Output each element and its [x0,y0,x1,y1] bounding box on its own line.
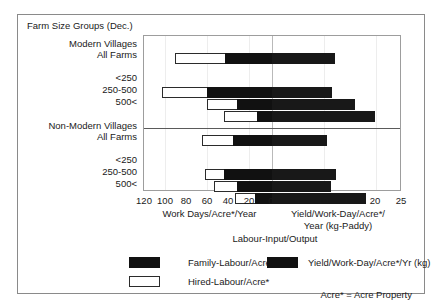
plot-area [143,35,401,191]
category-label-nonmodern-lt250: <250 [116,154,137,165]
bar-hired-nonmodern-250-500 [214,181,238,192]
bar-row-modern-250-500 [144,99,400,110]
category-label-modern-allfarms: All Farms [97,49,137,60]
category-label-nonmodern-500plus: 500< [116,178,137,189]
legend-swatch-family-labour [129,257,160,268]
chart-group-title: Farm Size Groups (Dec.) [27,20,133,31]
category-label-nonmodern-250-500: 250-500 [102,166,137,177]
bar-family-nonmodern-lt250 [224,169,273,180]
group-separator-line [144,128,400,129]
legend-label-hired-labour: Hired-Labour/Acre* [188,276,269,287]
group-label-modern: Modern Villages [69,38,137,49]
bar-hired-modern-lt250 [162,87,208,98]
bar-row-modern-lt250 [144,87,400,98]
axis-title-right-line1: Yield/Work-Day/Acre*/ [273,208,403,219]
legend-swatch-hired-labour [129,276,160,287]
bar-row-modern-500plus [144,111,400,122]
category-label-modern-lt250: <250 [116,72,137,83]
bar-hired-modern-500plus [224,111,258,122]
bar-row-nonmodern-250-500 [144,181,400,192]
legend-swatch-yield [267,257,298,268]
bar-row-nonmodern-allfarms [144,135,400,146]
bar-family-nonmodern-250-500 [237,181,273,192]
category-label-nonmodern-allfarms: All Farms [97,131,137,142]
category-label-modern-250-500: 250-500 [102,84,137,95]
bar-family-modern-lt250 [207,87,273,98]
axis-title-center: Labour-Input/Output [147,233,403,244]
bar-family-nonmodern-allfarms [233,135,273,146]
bar-yield-nonmodern-250-500 [272,181,331,192]
legend-label-yield: Yield/Work-Day/Acre*/Yr (kg) [308,257,430,268]
bar-yield-modern-250-500 [272,99,355,110]
bar-family-modern-allfarms [225,53,273,64]
chart-figure: Farm Size Groups (Dec.) Modern Villages … [17,14,425,294]
bar-hired-modern-allfarms [175,53,226,64]
bar-family-modern-250-500 [237,99,273,110]
bar-yield-nonmodern-allfarms [272,135,327,146]
bar-yield-modern-500plus [272,111,375,122]
bar-hired-nonmodern-allfarms [202,135,234,146]
bar-family-modern-500plus [257,111,273,122]
bar-row-nonmodern-lt250 [144,169,400,180]
category-label-modern-500plus: 500< [116,96,137,107]
bar-hired-modern-250-500 [207,99,238,110]
axis-title-left: Work Days/Acre*/Year [147,208,272,219]
bar-hired-nonmodern-lt250 [205,169,225,180]
legend-label-family-labour: Family-Labour/Acre* [188,257,275,268]
group-label-nonmodern: Non-Modern Villages [48,120,137,131]
axis-title-right-line2: Year (kg-Paddy) [273,220,403,231]
tick-label-25: 25 [386,195,416,206]
footnote-acre-property: Acre* = Acre Property [320,289,412,300]
bar-yield-nonmodern-lt250 [272,169,336,180]
bar-yield-modern-lt250 [272,87,332,98]
bar-yield-modern-allfarms [272,53,335,64]
bar-row-modern-allfarms [144,53,400,64]
